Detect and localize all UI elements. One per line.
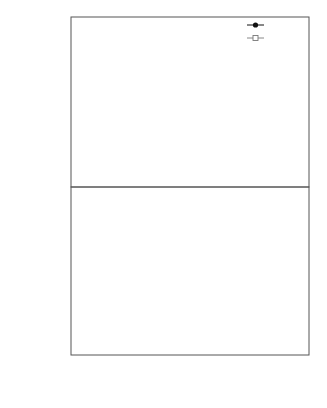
top-panel (71, 17, 309, 187)
legend-item-mn-l (247, 22, 264, 27)
legend-item-ba-m (247, 36, 264, 41)
figure (0, 0, 327, 408)
filled-circle-marker-icon (253, 22, 258, 27)
legend (247, 22, 264, 40)
top-plot-frame (71, 17, 309, 187)
bottom-panel (71, 187, 309, 355)
open-square-marker-icon (253, 36, 258, 41)
bottom-plot-frame (71, 187, 309, 355)
